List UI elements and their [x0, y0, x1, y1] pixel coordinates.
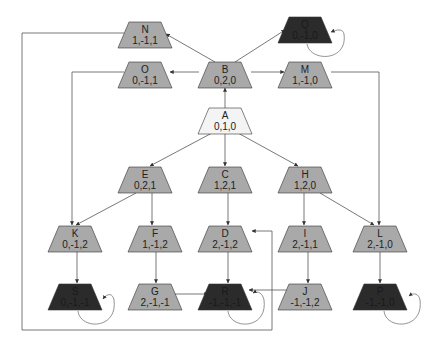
node-value: 2,-1,-1 — [141, 297, 170, 308]
node-name: I — [304, 228, 307, 239]
node-name: L — [377, 228, 383, 239]
node-r[interactable]: R-1,-1,-1 — [198, 284, 252, 310]
node-m[interactable]: M1,-1,0 — [278, 62, 332, 88]
node-q[interactable]: Q0,-1,0 — [278, 17, 332, 43]
edge-b-q — [235, 30, 285, 62]
node-name: N — [141, 24, 148, 35]
state-graph: N1,-1,1Q0,-1,0O0,-1,1B0,2,0M1,-1,0A0,1,0… — [0, 0, 440, 346]
node-value: 0,-1,-1 — [61, 297, 90, 308]
node-value: 1,-1,2 — [142, 239, 168, 250]
node-name: P — [377, 286, 384, 297]
edge-a-h — [238, 133, 298, 166]
node-value: 0,1,0 — [214, 121, 237, 132]
node-value: 2,-1,1 — [292, 239, 318, 250]
node-value: -1,-1,0 — [366, 297, 395, 308]
node-name: A — [222, 110, 229, 121]
node-value: 1,-1,0 — [292, 75, 318, 86]
node-name: J — [303, 286, 308, 297]
node-value: -1,-1,-1 — [209, 297, 242, 308]
node-l[interactable]: L2,-1,0 — [353, 226, 407, 252]
edge-m-l — [331, 72, 379, 225]
node-value: 0,-1,2 — [62, 239, 88, 250]
node-g[interactable]: G2,-1,-1 — [128, 284, 182, 310]
node-name: F — [152, 228, 158, 239]
node-name: O — [141, 64, 149, 75]
node-name: S — [72, 286, 79, 297]
edge-o-k — [72, 72, 124, 225]
state-graph-canvas: N1,-1,1Q0,-1,0O0,-1,1B0,2,0M1,-1,0A0,1,0… — [0, 0, 440, 346]
node-c[interactable]: C1,2,1 — [198, 167, 252, 193]
node-value: 0,2,0 — [214, 75, 237, 86]
node-j[interactable]: J-1,-1,2 — [278, 284, 332, 310]
node-value: 1,2,1 — [214, 180, 237, 191]
node-b[interactable]: B0,2,0 — [198, 62, 252, 88]
node-p[interactable]: P-1,-1,0 — [353, 284, 407, 310]
node-value: 2,-1,2 — [212, 239, 238, 250]
node-value: 0,2,1 — [134, 180, 157, 191]
nodes: N1,-1,1Q0,-1,0O0,-1,1B0,2,0M1,-1,0A0,1,0… — [48, 17, 407, 310]
node-name: M — [301, 64, 309, 75]
node-name: B — [222, 64, 229, 75]
node-s[interactable]: S0,-1,-1 — [48, 284, 102, 310]
edge-b-n — [166, 34, 215, 62]
edge-e-k — [76, 193, 136, 225]
node-name: H — [301, 169, 308, 180]
node-value: 0,-1,0 — [292, 30, 318, 41]
node-value: 1,-1,1 — [132, 35, 158, 46]
node-value: 0,-1,1 — [132, 75, 158, 86]
node-value: 2,-1,0 — [367, 239, 393, 250]
node-f[interactable]: F1,-1,2 — [128, 226, 182, 252]
node-n[interactable]: N1,-1,1 — [118, 22, 172, 48]
node-h[interactable]: H1,2,0 — [278, 167, 332, 193]
edge-h-l — [320, 193, 374, 225]
node-a[interactable]: A0,1,0 — [198, 108, 252, 134]
node-d[interactable]: D2,-1,2 — [198, 226, 252, 252]
node-name: D — [221, 228, 228, 239]
node-value: -1,-1,2 — [291, 297, 320, 308]
node-value: 1,2,0 — [294, 180, 317, 191]
edge-a-e — [150, 133, 212, 166]
node-i[interactable]: I2,-1,1 — [278, 226, 332, 252]
node-e[interactable]: E0,2,1 — [118, 167, 172, 193]
node-name: C — [221, 169, 228, 180]
node-k[interactable]: K0,-1,2 — [48, 226, 102, 252]
node-name: K — [72, 228, 79, 239]
node-name: Q — [301, 19, 309, 30]
node-name: G — [151, 286, 159, 297]
node-name: R — [221, 286, 228, 297]
node-name: E — [142, 169, 149, 180]
node-o[interactable]: O0,-1,1 — [118, 62, 172, 88]
